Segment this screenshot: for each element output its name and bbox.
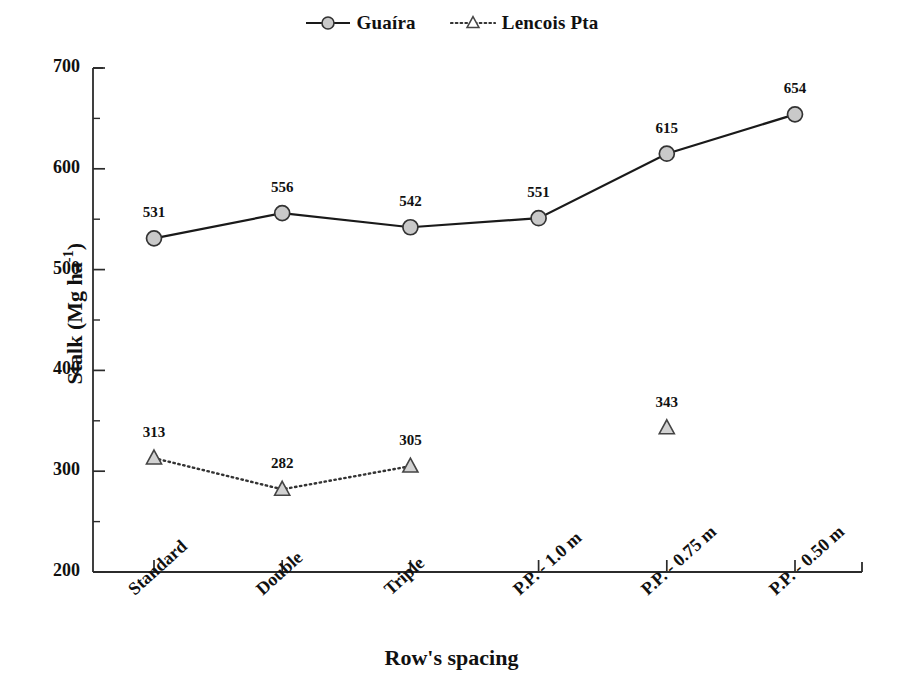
- y-tick-label: 600: [28, 157, 80, 178]
- series-markers: [146, 107, 802, 495]
- data-point-label: 556: [271, 179, 294, 196]
- data-point-label: 313: [143, 424, 166, 441]
- data-point-label: 305: [399, 432, 422, 449]
- y-tick-label: 200: [28, 560, 80, 581]
- axis-lines: [93, 68, 862, 572]
- chart-figure: Guaíra Lencois Pta 20030040050060: [0, 0, 903, 692]
- data-point-label: 343: [656, 394, 679, 411]
- y-tick-label: 700: [28, 56, 80, 77]
- y-axis-title-exponent: -1: [60, 250, 76, 262]
- series-lines: [154, 114, 795, 489]
- y-axis-minor-ticks: [93, 118, 100, 521]
- data-point-label: 531: [143, 204, 166, 221]
- data-point-label: 282: [271, 455, 294, 472]
- x-axis-ticks: [154, 560, 795, 572]
- x-axis-title: Row's spacing: [0, 645, 903, 671]
- y-axis-title-close: ): [62, 243, 87, 250]
- data-point-label: 615: [656, 120, 679, 137]
- data-point-label: 654: [784, 80, 807, 97]
- y-tick-label: 300: [28, 459, 80, 480]
- y-axis-title-base: Stalk (Mg ha: [62, 262, 87, 384]
- y-axis-title: Stalk (Mg ha-1): [60, 184, 87, 444]
- data-point-label: 542: [399, 193, 422, 210]
- data-point-label: 551: [527, 184, 550, 201]
